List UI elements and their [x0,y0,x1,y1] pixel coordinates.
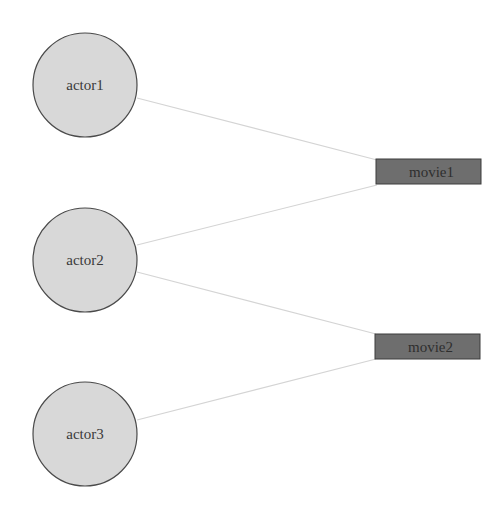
actor-label: actor1 [66,77,103,93]
movie-label: movie1 [409,164,454,180]
edge-actor2-movie1 [137,185,377,245]
movie-node-movie1[interactable]: movie1 [376,159,481,184]
actor-label: actor3 [66,426,103,442]
edge-actor3-movie2 [137,359,376,420]
graph-canvas: actor1actor2actor3 movie1movie2 [0,0,503,516]
movie-label: movie2 [408,339,453,355]
actor-label: actor2 [66,252,103,268]
edge-actor2-movie2 [137,272,376,334]
edges-layer [137,98,377,420]
movies-layer: movie1movie2 [375,159,481,359]
actor-node-actor3[interactable]: actor3 [33,382,137,486]
movie-node-movie2[interactable]: movie2 [375,334,480,359]
actor-node-actor1[interactable]: actor1 [33,33,137,137]
actor-node-actor2[interactable]: actor2 [33,208,137,312]
edge-actor1-movie1 [137,98,377,160]
actors-layer: actor1actor2actor3 [33,33,137,486]
